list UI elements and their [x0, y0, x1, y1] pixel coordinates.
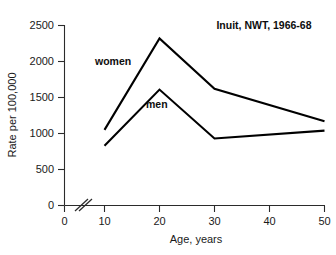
x-tick-label: 30 — [208, 215, 220, 227]
y-tick-label: 1000 — [30, 127, 54, 139]
x-tick-marks — [65, 206, 325, 213]
x-axis-title: Age, years — [170, 233, 223, 245]
x-tick-label: 0 — [61, 215, 67, 227]
series-line-women — [105, 38, 325, 129]
y-tick-marks — [58, 26, 65, 206]
series-line-men — [105, 90, 325, 146]
y-tick-label: 2500 — [30, 19, 54, 31]
x-tick-label: 40 — [263, 215, 275, 227]
y-tick-label: 2000 — [30, 55, 54, 67]
x-tick-label: 10 — [98, 215, 110, 227]
chart-annotation: Inuit, NWT, 1966-68 — [216, 19, 311, 31]
y-axis-title: Rate per 100,000 — [6, 72, 18, 157]
y-tick-label: 500 — [36, 163, 54, 175]
y-tick-label: 1500 — [30, 91, 54, 103]
series-label-men: men — [146, 98, 168, 110]
chart-container: 2500 2000 1500 1000 500 0 0 10 20 30 40 … — [0, 0, 336, 255]
x-tick-label: 20 — [153, 215, 165, 227]
line-chart: 2500 2000 1500 1000 500 0 0 10 20 30 40 … — [0, 0, 336, 255]
y-tick-label: 0 — [48, 199, 54, 211]
x-tick-label: 50 — [318, 215, 330, 227]
series-label-women: women — [94, 55, 131, 67]
